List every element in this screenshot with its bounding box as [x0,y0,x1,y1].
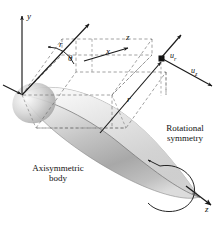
radius-vector-upper [22,24,89,95]
rotational-caption-line2: symmetry [152,134,218,144]
radius-label-upper: r [59,40,63,50]
rotational-symmetry-caption: Rotational symmetry [152,124,218,143]
z-axis-label-bottom: z [205,205,209,215]
x-axis-label: x [106,47,110,57]
radial-velocity-subscript: r [174,56,176,62]
axial-velocity-vector [161,58,212,86]
diagram-canvas [0,0,221,228]
axial-velocity-label: uz [191,67,197,77]
radius-label-lower: r [127,95,131,105]
radial-velocity-label: ur [170,52,176,62]
y-axis-label: y [27,12,31,22]
axisymmetric-caption-line2: body [10,174,106,184]
nose-pointer-arrow [3,85,21,94]
theta-label: θ [68,54,72,64]
axial-velocity-subscript: z [195,71,197,77]
z-label-top: z [126,33,130,43]
axisymmetric-body-diagram: y x z r r θ ur uz z Axisymmetric body Ro… [0,0,221,228]
axisymmetric-body-caption: Axisymmetric body [10,164,106,183]
